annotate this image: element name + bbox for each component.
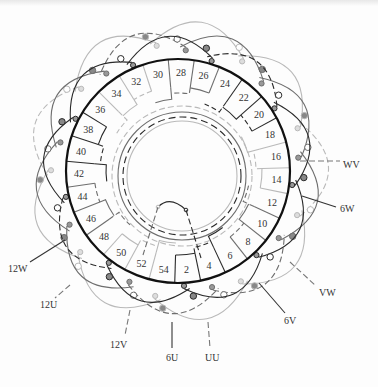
slot-label: 42 — [74, 168, 84, 179]
slot-label: 32 — [131, 76, 141, 87]
terminal-label-12v: 12V — [110, 339, 128, 350]
terminal-label-wv: WV — [343, 159, 360, 170]
slot-label: 2 — [184, 264, 189, 275]
terminal-label-6w: 6W — [340, 203, 355, 214]
terminal-lead-line — [125, 310, 130, 335]
slot-label: 36 — [95, 104, 105, 115]
slot-label: 18 — [265, 129, 275, 140]
slot-label: 8 — [246, 236, 251, 247]
terminal-lead-line — [55, 285, 70, 298]
slot-label: 44 — [77, 191, 87, 202]
slot-label: 34 — [112, 88, 122, 99]
slot-label: 28 — [176, 67, 186, 78]
slot-label: 26 — [199, 70, 209, 81]
slot-label: 46 — [86, 213, 96, 224]
slot-label: 14 — [272, 174, 282, 185]
slot-label: 4 — [207, 260, 212, 271]
slot-label: 6 — [228, 250, 233, 261]
slot-label: 20 — [254, 109, 264, 120]
terminal-label-12u: 12U — [40, 299, 58, 310]
terminal-leads: WV6WVW6VUU6U12V12U12W — [8, 159, 360, 363]
stator-winding-svg: 2468101214161820222426283032343638404244… — [0, 0, 378, 387]
terminal-lead-line — [290, 262, 316, 286]
terminal-label-12w: 12W — [8, 263, 28, 274]
slot-label: 10 — [257, 218, 267, 229]
slot-label: 16 — [271, 151, 281, 162]
slot-label: 30 — [153, 69, 163, 80]
slot-label: 40 — [76, 146, 86, 157]
slot-label: 12 — [267, 197, 277, 208]
slot-label: 54 — [159, 264, 169, 275]
slot-label: 52 — [136, 258, 146, 269]
terminal-label-6v: 6V — [284, 315, 297, 326]
slot-label: 50 — [116, 247, 126, 258]
slot-label: 22 — [239, 92, 249, 103]
terminal-lead-line — [259, 283, 285, 313]
terminal-label-vw: VW — [319, 287, 336, 298]
terminal-lead-line — [30, 240, 65, 262]
terminal-lead-line — [208, 322, 210, 348]
slot-label: 48 — [99, 231, 109, 242]
terminal-lead-line — [302, 196, 336, 207]
terminal-label-uu: UU — [205, 352, 220, 363]
slot-label: 38 — [83, 124, 93, 135]
winding-diagram-figure: 2468101214161820222426283032343638404244… — [0, 0, 378, 387]
terminal-label-6u: 6U — [166, 352, 179, 363]
inner-connection-arcs — [112, 106, 252, 258]
slot-label: 24 — [220, 78, 230, 89]
